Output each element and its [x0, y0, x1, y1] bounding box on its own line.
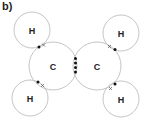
electron-dot — [74, 57, 77, 60]
electron-cross — [109, 87, 112, 90]
atom-symbol-c2: C — [94, 62, 101, 72]
atom-symbol-h3: H — [118, 29, 125, 39]
electron-dot — [114, 48, 117, 51]
diagram-canvas: H H C C H H — [0, 0, 147, 129]
atom-symbol-h4: H — [118, 95, 125, 105]
atom-symbol-c1: C — [50, 62, 57, 72]
electron-dot — [38, 46, 41, 49]
electron-dot — [74, 71, 77, 74]
electron-dot — [74, 62, 77, 65]
atom-symbol-h1: H — [29, 26, 36, 36]
bond-h1-c1-electrons — [38, 44, 46, 49]
electron-dot — [37, 81, 40, 84]
atom-symbol-h2: H — [27, 94, 34, 104]
electron-dot — [74, 66, 77, 69]
part-label: b) — [2, 0, 12, 12]
ethene-dot-cross-diagram: b) H H C C H H — [0, 0, 147, 129]
electron-dot — [114, 83, 117, 86]
